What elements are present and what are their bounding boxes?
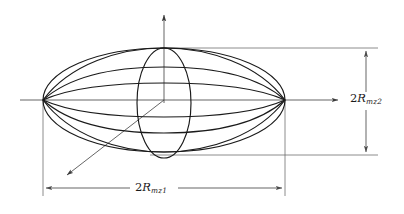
latitude-arc-lower-3 (43, 100, 285, 152)
ellipsoid-figure-canvas (0, 0, 404, 214)
horizontal-dimension-label-subscript: mz1 (151, 186, 167, 195)
vertical-dimension-label-variable: R (357, 91, 366, 105)
ellipsoid-diagram: 2Rmz1 2Rmz2 (0, 0, 404, 214)
horizontal-dimension-label: 2Rmz1 (135, 182, 167, 194)
dimension-lines (46, 51, 366, 188)
vertical-dimension-label-subscript: mz2 (366, 97, 382, 106)
horizontal-dimension-label-variable: R (142, 180, 151, 194)
vertical-dimension-label: 2Rmz2 (350, 93, 382, 105)
